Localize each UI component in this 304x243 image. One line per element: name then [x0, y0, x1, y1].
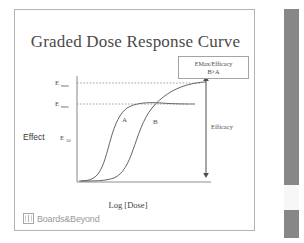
page-title: Graded Dose Response Curve — [15, 32, 255, 52]
vertical-scrollbar[interactable] — [284, 9, 299, 238]
slide-viewer: Graded Dose Response Curve E max — [0, 0, 304, 243]
callout-line-1: EMax/Efficacy — [195, 60, 234, 67]
scrollbar-thumb[interactable] — [284, 185, 299, 210]
dose-response-curve-a — [79, 103, 195, 181]
presentation-slide: Graded Dose Response Curve E max — [14, 9, 255, 231]
y-axis-label: Effect — [23, 132, 45, 142]
y-tick-emax-a: E max — [55, 100, 70, 109]
efficacy-label: Efficacy — [211, 123, 234, 130]
brand-logo: Boards&Beyond — [23, 213, 99, 224]
y-tick-emax-a-sub: max — [61, 104, 70, 109]
y-tick-emax-b: E max — [55, 79, 70, 88]
callout-box: EMax/Efficacy B>A — [178, 56, 250, 80]
y-tick-e50-base: E — [60, 134, 64, 142]
x-axis-label: Log [Dose] — [109, 200, 148, 210]
y-tick-emax-b-sub: max — [61, 83, 70, 88]
brand-logo-text: Boards&Beyond — [37, 214, 99, 224]
callout-line-2: B>A — [207, 68, 220, 75]
dose-response-curve-b — [81, 82, 206, 181]
book-icon — [23, 213, 34, 224]
efficacy-arrow — [203, 76, 209, 178]
curve-label-a: A — [122, 116, 127, 124]
y-tick-e50-sub: 50 — [66, 138, 71, 143]
y-tick-e50: E 50 — [60, 134, 71, 143]
dose-response-chart: E max E max E 50 Effect A B — [15, 56, 255, 216]
y-tick-emax-a-base: E — [55, 100, 59, 108]
y-tick-emax-b-base: E — [55, 79, 59, 87]
curve-label-b: B — [153, 118, 158, 126]
